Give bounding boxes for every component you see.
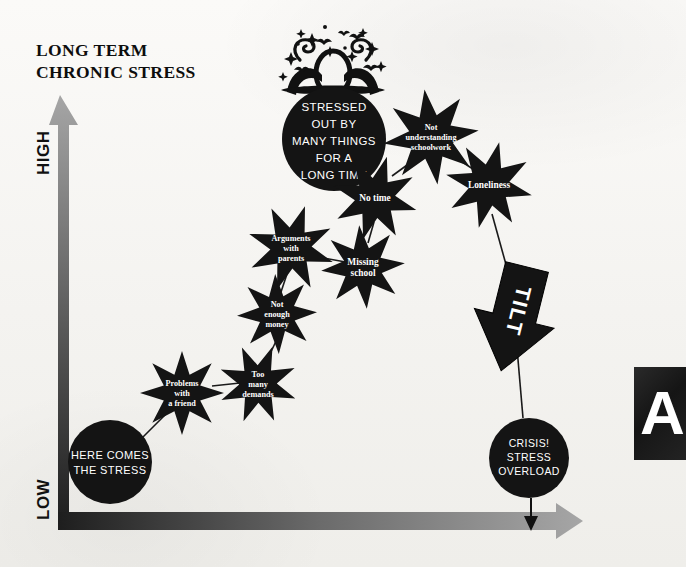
end-node[interactable]: CRISIS! STRESS OVERLOAD: [489, 418, 569, 498]
stressor-label-line-1: enough: [264, 310, 290, 319]
stressor-node-missing-school[interactable]: Missingschool: [321, 225, 405, 309]
start-node-shape: [68, 420, 152, 504]
stressor-node-not-understanding-schoolwork[interactable]: Notunderstandingschoolwork: [383, 89, 478, 184]
stressor-label-line-1: with: [174, 389, 190, 398]
stress-diagram-page: LONG TERM CHRONIC STRESS HIGH LOW: [0, 0, 686, 567]
headline-node-line-3: FOR A: [316, 152, 353, 164]
stressor-label-line-0: Missing: [347, 257, 379, 267]
horizontal-time-axis: [58, 503, 583, 539]
headline-node[interactable]: STRESSED OUT BY MANY THINGS FOR A LONG T…: [282, 87, 386, 191]
stressor-label-line-0: Problems: [165, 379, 198, 388]
diagram-canvas: STRESSED OUT BY MANY THINGS FOR A LONG T…: [0, 0, 686, 567]
stressor-label-line-0: Not: [425, 123, 438, 132]
stressor-node-not-enough-money[interactable]: Notenoughmoney: [237, 274, 317, 354]
stressor-label-line-1: understanding: [406, 133, 458, 142]
side-panel-letter: A: [640, 373, 685, 453]
stressor-label-line-1: with: [283, 244, 299, 253]
stressor-label-line-0: Too: [252, 370, 265, 379]
start-node[interactable]: HERE COMES THE STRESS: [68, 420, 152, 504]
stressor-label-line-0: Not: [271, 300, 284, 309]
stressor-label-line-0: No time: [359, 193, 391, 203]
headline-node-line-1: OUT BY: [311, 118, 356, 130]
start-node-line-1: THE STRESS: [73, 464, 146, 476]
end-node-line-1: STRESS: [507, 451, 551, 463]
stressor-label-line-2: demands: [242, 390, 273, 399]
headline-node-line-2: MANY THINGS: [292, 135, 376, 147]
stressor-label-line-0: Arguments: [271, 234, 310, 243]
stressor-label-line-2: schoolwork: [411, 143, 451, 152]
stressor-label-line-2: parents: [278, 254, 304, 263]
stressor-label-line-0: Loneliness: [468, 180, 511, 190]
stressor-label-line-1: many: [248, 380, 268, 389]
headline-node-line-0: STRESSED: [301, 101, 366, 113]
stressor-node-arguments-with-parents[interactable]: Argumentswithparents: [249, 206, 332, 289]
stressor-label-line-2: a friend: [168, 399, 196, 408]
starburst-shape: [321, 225, 405, 309]
stressor-label-line-2: money: [265, 320, 289, 329]
side-panel: A: [634, 367, 686, 460]
stressor-label-line-1: school: [350, 268, 375, 278]
stressor-node-problems-with-a-friend[interactable]: Problemswitha friend: [140, 351, 224, 435]
tilt-arrow[interactable]: TILT: [461, 257, 566, 381]
end-node-line-0: CRISIS!: [509, 437, 550, 449]
overwhelmed-person-illustration: [278, 25, 386, 95]
start-node-line-0: HERE COMES: [71, 449, 149, 461]
end-node-line-2: OVERLOAD: [498, 465, 560, 477]
